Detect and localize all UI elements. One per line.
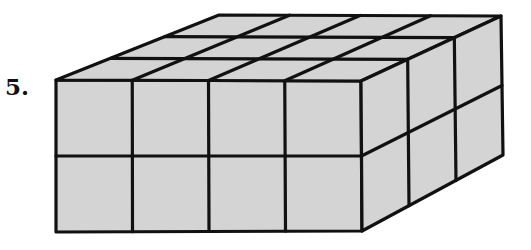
cube-prism-figure	[0, 0, 531, 250]
top-width-line	[110, 58, 407, 59]
top-width-line	[165, 37, 455, 38]
prism-faces	[56, 15, 503, 232]
